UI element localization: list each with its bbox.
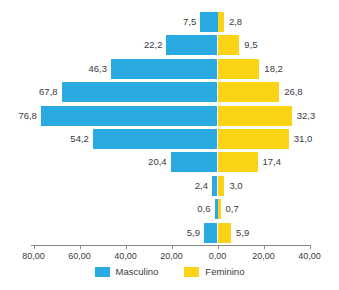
x-axis-tick-label: 0,00 xyxy=(198,251,238,261)
bar-masculino[interactable] xyxy=(111,59,217,79)
bar-label-feminino: 5,9 xyxy=(236,226,249,239)
legend-item-feminino[interactable]: Feminino xyxy=(184,266,244,277)
legend-item-masculino[interactable]: Masculino xyxy=(95,266,159,277)
x-axis-tick xyxy=(80,245,81,249)
bar-label-masculino: 67,8 xyxy=(39,85,58,98)
x-axis-tick-label: 20,00 xyxy=(244,251,284,261)
bar-label-masculino: 0,6 xyxy=(197,202,210,215)
x-axis-tick-label: 60,00 xyxy=(60,251,100,261)
x-axis-tick xyxy=(310,245,311,249)
bar-feminino[interactable] xyxy=(218,82,280,102)
legend-label-masculino: Masculino xyxy=(116,266,159,277)
bar-masculino[interactable] xyxy=(200,12,217,32)
x-axis-tick xyxy=(218,245,219,249)
bar-label-feminino: 31,0 xyxy=(294,132,313,145)
x-axis-tick xyxy=(126,245,127,249)
x-axis-line xyxy=(31,245,310,246)
bar-masculino[interactable] xyxy=(204,223,218,243)
pyramid-row: 2,43,0 xyxy=(0,175,339,198)
bar-label-masculino: 20,4 xyxy=(148,155,167,168)
bar-masculino[interactable] xyxy=(166,35,217,55)
pyramid-row: 54,231,0 xyxy=(0,128,339,151)
x-axis-tick-label: 40,00 xyxy=(290,251,330,261)
bar-feminino[interactable] xyxy=(218,176,225,196)
bar-masculino[interactable] xyxy=(171,152,218,172)
bar-feminino[interactable] xyxy=(218,35,240,55)
x-axis-tick-label: 40,00 xyxy=(106,251,146,261)
bar-label-feminino: 9,5 xyxy=(244,38,257,51)
bar-feminino[interactable] xyxy=(218,12,224,32)
pyramid-row: 0,60,7 xyxy=(0,198,339,221)
bar-feminino[interactable] xyxy=(218,223,232,243)
bar-masculino[interactable] xyxy=(41,106,218,126)
bar-label-masculino: 46,3 xyxy=(89,62,108,75)
bar-label-feminino: 32,3 xyxy=(297,109,316,122)
bar-label-feminino: 26,8 xyxy=(284,85,303,98)
bar-masculino[interactable] xyxy=(62,82,218,102)
plot-area: 7,52,822,29,546,318,267,826,876,832,354,… xyxy=(0,0,339,243)
bar-masculino[interactable] xyxy=(93,129,218,149)
bar-feminino[interactable] xyxy=(218,106,292,126)
x-axis-tick xyxy=(34,245,35,249)
bar-label-feminino: 17,4 xyxy=(263,155,282,168)
legend-swatch-feminino xyxy=(184,267,199,277)
pyramid-row: 20,417,4 xyxy=(0,151,339,174)
chart-legend: Masculino Feminino xyxy=(0,266,339,277)
x-axis-tick xyxy=(172,245,173,249)
bar-feminino[interactable] xyxy=(218,152,258,172)
bar-label-masculino: 54,2 xyxy=(70,132,89,145)
bar-feminino[interactable] xyxy=(218,199,221,219)
bar-feminino[interactable] xyxy=(218,59,260,79)
bar-label-feminino: 3,0 xyxy=(229,179,242,192)
legend-label-feminino: Feminino xyxy=(205,266,244,277)
bar-label-masculino: 2,4 xyxy=(195,179,208,192)
pyramid-row: 46,318,2 xyxy=(0,58,339,81)
pyramid-row: 76,832,3 xyxy=(0,105,339,128)
bar-feminino[interactable] xyxy=(218,129,289,149)
x-axis-tick-label: 80,00 xyxy=(14,251,54,261)
bar-label-feminino: 2,8 xyxy=(229,15,242,28)
pyramid-row: 22,29,5 xyxy=(0,34,339,57)
bar-label-masculino: 5,9 xyxy=(187,226,200,239)
bar-label-feminino: 18,2 xyxy=(264,62,283,75)
legend-swatch-masculino xyxy=(95,267,110,277)
x-axis-tick-label: 20,00 xyxy=(152,251,192,261)
pyramid-row: 7,52,8 xyxy=(0,11,339,34)
pyramid-row: 67,826,8 xyxy=(0,81,339,104)
bar-label-masculino: 22,2 xyxy=(144,38,163,51)
bar-label-masculino: 76,8 xyxy=(18,109,37,122)
population-pyramid-chart: 7,52,822,29,546,318,267,826,876,832,354,… xyxy=(0,0,339,290)
pyramid-row: 5,95,9 xyxy=(0,222,339,245)
bar-label-masculino: 7,5 xyxy=(183,15,196,28)
x-axis-tick xyxy=(264,245,265,249)
bar-label-feminino: 0,7 xyxy=(226,202,239,215)
